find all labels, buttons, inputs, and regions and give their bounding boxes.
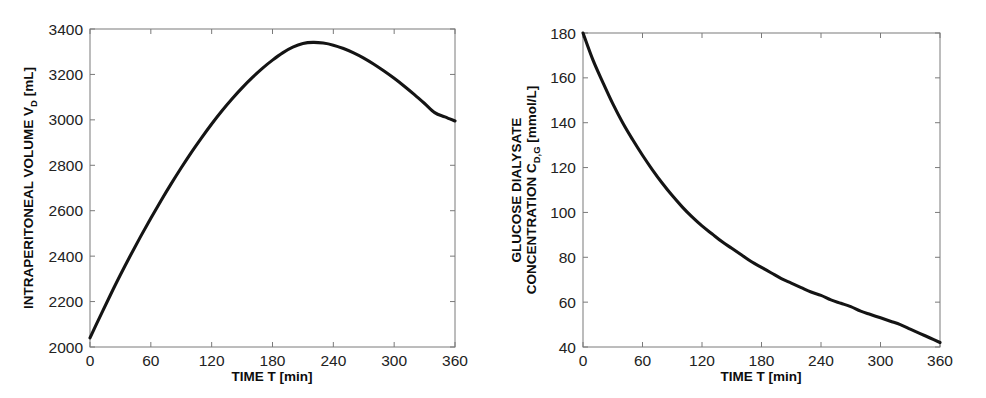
y-tick-label: 2200	[49, 293, 84, 310]
right-plot-frame	[583, 33, 940, 347]
y-tick-label: 40	[559, 339, 577, 356]
y-tick-label: 2000	[49, 339, 84, 356]
right-y-axis-title-line2: CONCENTRATION CD,G [mmol/L]	[524, 86, 542, 295]
right-y-axis-title-line1: GLUCOSE DIALYSATE	[509, 118, 524, 263]
x-tick-label: 300	[381, 352, 407, 369]
left-tick-marks	[90, 29, 455, 347]
right-data-curve	[583, 33, 940, 343]
right-tick-marks	[583, 33, 940, 347]
right-y-axis-title-unit: [mmol/L]	[524, 86, 539, 147]
x-tick-label: 60	[142, 352, 160, 369]
x-tick-label: 60	[634, 352, 652, 369]
left-y-tick-labels: 20002200240026002800300032003400	[49, 21, 84, 356]
left-data-curve	[90, 42, 455, 338]
svg-text:INTRAPERITONEAL VOLUME VD [mL]: INTRAPERITONEAL VOLUME VD [mL]	[21, 67, 39, 309]
x-tick-label: 300	[868, 352, 894, 369]
y-tick-label: 80	[559, 249, 577, 266]
x-tick-label: 180	[749, 352, 775, 369]
right-y-axis-title: GLUCOSE DIALYSATE CONCENTRATION CD,G [mm…	[509, 86, 542, 295]
figure-two-panel-plot: 060120180240300360 200022002400260028003…	[0, 0, 986, 398]
left-y-axis-title-main: INTRAPERITONEAL VOLUME V	[21, 107, 36, 309]
y-tick-label: 100	[550, 204, 576, 221]
y-tick-label: 3400	[49, 21, 84, 38]
x-tick-label: 360	[927, 352, 953, 369]
left-plot-frame	[90, 29, 455, 347]
x-tick-label: 180	[260, 352, 286, 369]
x-tick-label: 0	[579, 352, 588, 369]
left-y-axis-title: INTRAPERITONEAL VOLUME VD [mL]	[21, 67, 39, 309]
right-y-axis-title-subscript: D,G	[531, 146, 542, 163]
x-tick-label: 0	[86, 352, 95, 369]
x-tick-label: 120	[689, 352, 715, 369]
left-x-axis-title: TIME T [min]	[232, 369, 313, 384]
panel-intraperitoneal-volume: 060120180240300360 200022002400260028003…	[0, 0, 493, 398]
x-tick-label: 240	[808, 352, 834, 369]
y-tick-label: 3000	[49, 111, 84, 128]
left-chart-svg: 060120180240300360 200022002400260028003…	[0, 0, 493, 398]
left-y-axis-title-unit: [mL]	[21, 67, 36, 100]
y-tick-label: 180	[550, 25, 576, 42]
x-tick-label: 240	[320, 352, 346, 369]
panel-glucose-dialysate-concentration: 060120180240300360 406080100120140160180…	[493, 0, 986, 398]
right-y-tick-labels: 406080100120140160180	[550, 25, 576, 356]
y-tick-label: 120	[550, 159, 576, 176]
y-tick-label: 3200	[49, 66, 84, 83]
y-tick-label: 60	[559, 294, 577, 311]
y-tick-label: 160	[550, 69, 576, 86]
right-y-axis-title-main: CONCENTRATION C	[524, 163, 539, 294]
y-tick-label: 2600	[49, 202, 84, 219]
y-tick-label: 140	[550, 114, 576, 131]
x-tick-label: 120	[199, 352, 225, 369]
right-chart-svg: 060120180240300360 406080100120140160180…	[493, 0, 986, 398]
left-x-tick-labels: 060120180240300360	[86, 352, 469, 369]
y-tick-label: 2800	[49, 157, 84, 174]
y-tick-label: 2400	[49, 248, 84, 265]
x-tick-label: 360	[442, 352, 468, 369]
right-x-tick-labels: 060120180240300360	[579, 352, 954, 369]
right-x-axis-title: TIME T [min]	[721, 369, 802, 384]
